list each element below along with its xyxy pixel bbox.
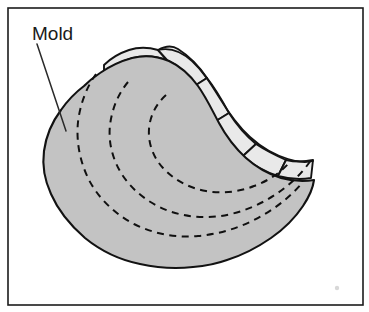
figure-container: Mold — [0, 0, 369, 312]
mold-label: Mold — [32, 23, 73, 44]
scan-speck — [335, 286, 339, 290]
mold-leader-line — [37, 44, 66, 131]
mold-diagram-svg: Mold — [0, 0, 369, 312]
